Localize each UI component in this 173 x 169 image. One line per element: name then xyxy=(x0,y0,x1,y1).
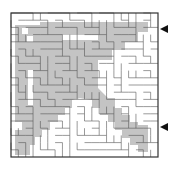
maze-canvas xyxy=(0,0,173,169)
exit-arrow-icon xyxy=(160,123,168,131)
maze-puzzle xyxy=(0,0,173,169)
maze-walls xyxy=(11,13,158,157)
entrance-arrow-icon xyxy=(160,25,168,33)
